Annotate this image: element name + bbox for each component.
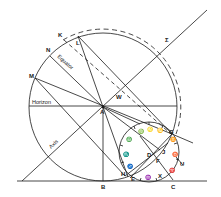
label-b: B: [101, 184, 106, 190]
label-f: F: [156, 158, 160, 164]
label-d: D: [147, 152, 152, 158]
label-m: M: [29, 73, 34, 79]
axis-line: [22, 10, 207, 181]
zodiac-leo: ♌: [147, 126, 153, 133]
label-u: U: [180, 161, 184, 167]
line-m-h: [35, 78, 125, 176]
zodiac-aquarius: ♒: [145, 174, 151, 181]
label-n: N: [46, 47, 50, 53]
label-x: X: [158, 173, 162, 179]
zodiac-sagittarius: ♐: [127, 163, 133, 170]
astrolabe-projection-diagram: K L N M A W B H E X C U D F J G Σ Equato…: [0, 0, 221, 197]
label-e: E: [131, 176, 135, 182]
label-w: W: [116, 94, 122, 100]
equator-label: Equator: [56, 53, 74, 70]
zodiac-virgo: ♍: [138, 128, 144, 135]
line-h-g: [125, 143, 168, 176]
label-j: J: [162, 149, 165, 155]
zodiac-gemini: ♊: [170, 136, 176, 143]
zodiac-taurus: ♉: [172, 151, 178, 158]
line-n-a: [50, 56, 103, 107]
line-l-a: [78, 36, 103, 107]
line-a-h: [103, 107, 128, 177]
label-k: K: [58, 32, 63, 38]
label-sigma: Σ: [165, 37, 169, 43]
label-l: L: [76, 40, 80, 46]
label-g: G: [169, 129, 174, 135]
horizon-label: Horizon: [32, 99, 51, 105]
label-h: H: [121, 171, 125, 177]
line-l-g: [78, 36, 172, 134]
label-a: A: [100, 109, 105, 115]
zodiac-libra: ♎: [126, 136, 132, 143]
label-c: C: [171, 184, 176, 190]
zodiac-aries: ♈: [169, 167, 175, 174]
zodiac-cancer: ♋: [157, 127, 163, 134]
zodiac-scorpio: ♏: [123, 151, 129, 158]
center-point-a: [102, 106, 105, 109]
